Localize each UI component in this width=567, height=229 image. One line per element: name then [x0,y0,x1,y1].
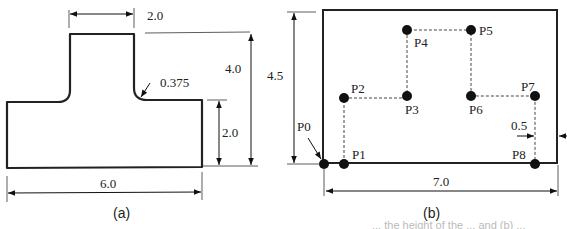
point-label-p2: P2 [351,81,365,96]
stem-width-label: 2.0 [147,8,163,23]
base-width-label: 6.0 [100,176,116,191]
point-p3 [402,91,412,101]
caption-a: (a) [113,205,130,221]
tool-path [344,30,535,163]
t-shape-outline [7,34,202,168]
height-label: 4.5 [267,68,283,83]
base-height-label: 2.0 [222,125,238,140]
p0-leader [308,138,321,159]
point-p6 [466,91,476,101]
point-p4 [402,25,412,35]
point-label-p0: P0 [297,119,311,134]
point-label-p6: P6 [469,102,483,117]
figure-b: P0 P1 P2 P3 P4 P5 P6 P7 P8 4.5 7.0 0.5 (… [267,10,567,221]
total-height-label: 4.0 [225,61,241,76]
width-label: 7.0 [433,174,449,189]
figure-canvas: 2.0 4.0 2.0 0.375 6.0 (a) [0,0,567,229]
point-p2 [339,93,349,103]
point-label-p8: P8 [512,147,526,162]
point-label-p4: P4 [414,35,428,50]
point-p5 [466,25,476,35]
point-label-p3: P3 [405,102,419,117]
point-p0 [319,159,329,169]
base-width-dim-line [8,192,201,193]
truncated-caption-text: ... the height of the ... and (b) ... [372,219,525,229]
point-p1 [339,159,349,169]
point-label-p1: P1 [352,147,366,162]
point-label-p7: P7 [521,79,535,94]
fillet-radius-label: 0.375 [160,75,189,90]
offset-label: 0.5 [511,118,527,133]
point-label-p5: P5 [479,23,493,38]
figure-a: 2.0 4.0 2.0 0.375 6.0 (a) [7,8,258,221]
fillet-leader [141,83,150,97]
point-p8 [530,159,540,169]
